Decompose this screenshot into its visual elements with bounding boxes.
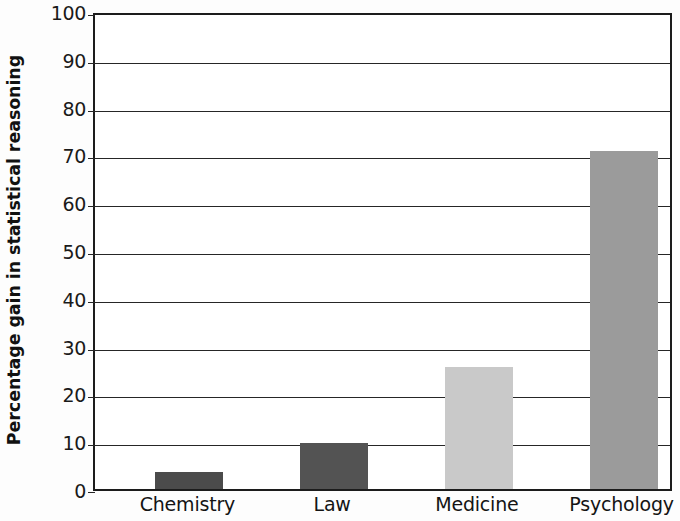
bar-chart: Percentage gain in statistical reasoning… bbox=[0, 0, 680, 521]
y-axis-tick-label: 70 bbox=[42, 147, 86, 166]
y-axis-tickmark bbox=[88, 206, 95, 207]
y-axis-title: Percentage gain in statistical reasoning bbox=[0, 0, 28, 500]
y-axis-tick-label: 60 bbox=[42, 195, 86, 214]
y-axis-title-label: Percentage gain in statistical reasoning bbox=[4, 55, 24, 445]
y-axis-tick-label: 100 bbox=[42, 4, 86, 23]
y-axis-tick-labels: 0102030405060708090100 bbox=[36, 0, 86, 521]
y-axis-tickmark bbox=[88, 302, 95, 303]
y-axis-tick-label: 30 bbox=[42, 338, 86, 357]
x-axis-category-label: Law bbox=[314, 493, 351, 515]
y-axis-tickmark bbox=[88, 15, 95, 16]
bar bbox=[590, 151, 658, 489]
x-axis-category-label: Psychology bbox=[569, 493, 674, 515]
bar bbox=[300, 443, 368, 489]
y-axis-tickmark bbox=[88, 350, 95, 351]
bar bbox=[445, 367, 513, 489]
y-axis-tick-label: 0 bbox=[42, 482, 86, 501]
x-axis-category-label: Chemistry bbox=[140, 493, 235, 515]
y-axis-tickmark bbox=[88, 445, 95, 446]
y-axis-tick-label: 50 bbox=[42, 243, 86, 262]
x-axis-category-label: Medicine bbox=[435, 493, 518, 515]
y-axis-tick-label: 10 bbox=[42, 434, 86, 453]
y-axis-tick-label: 40 bbox=[42, 290, 86, 309]
y-axis-tick-label: 20 bbox=[42, 386, 86, 405]
y-axis-tickmark bbox=[88, 254, 95, 255]
y-axis-tickmark bbox=[88, 111, 95, 112]
y-axis-tick-label: 90 bbox=[42, 51, 86, 70]
y-axis-tickmark bbox=[88, 158, 95, 159]
y-axis-tickmark bbox=[88, 397, 95, 398]
bar bbox=[155, 472, 223, 489]
bars-layer bbox=[95, 15, 670, 489]
y-axis-tickmark bbox=[88, 63, 95, 64]
y-axis-tick-label: 80 bbox=[42, 99, 86, 118]
x-axis-category-labels: ChemistryLawMedicinePsychology bbox=[93, 493, 672, 521]
plot-area bbox=[93, 13, 672, 491]
